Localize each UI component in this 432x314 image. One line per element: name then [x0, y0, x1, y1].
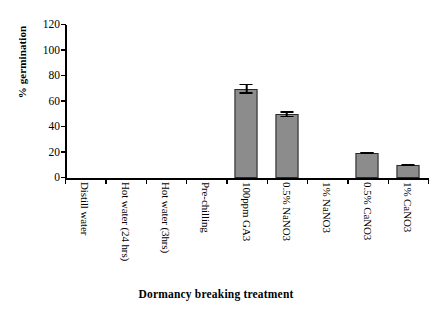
bar-slot: [65, 25, 105, 178]
plot-area: [65, 25, 428, 178]
x-tick-label: 100ppm GA3: [241, 182, 253, 241]
y-tick-label: 20: [30, 147, 60, 158]
error-bar-cap-top: [240, 84, 253, 86]
y-tick-label: 120: [30, 19, 60, 30]
x-tick-label-wrap: Hot water (24 hrs): [119, 178, 133, 288]
x-tick-label-wrap: Hot water (3hrs): [159, 178, 173, 288]
x-tick-label-wrap: Pre-chilling: [199, 178, 213, 288]
bar-slot: [146, 25, 186, 178]
x-tick-label: Hot water (24 hrs): [120, 182, 132, 261]
x-axis-tick-labels: Distill waterHot water (24 hrs)Hot water…: [65, 178, 428, 288]
x-tick-label: Pre-chilling: [200, 182, 212, 233]
x-tick-label: Hot water (3hrs): [160, 182, 172, 253]
error-bar: [361, 152, 374, 154]
y-axis-tick-labels: 020406080100120: [28, 0, 60, 314]
x-axis-title: Dormancy breaking treatment: [0, 288, 432, 300]
error-bar: [240, 84, 253, 94]
bar[interactable]: [275, 114, 298, 178]
error-bar-cap-bottom: [240, 92, 253, 94]
y-axis-title: % germination: [16, 7, 28, 117]
error-bar: [280, 111, 293, 117]
bar-slot: [347, 25, 387, 178]
y-tick-label: 0: [30, 172, 60, 183]
bar[interactable]: [235, 89, 258, 178]
bar-slot: [388, 25, 428, 178]
x-tick-mark: [428, 178, 429, 184]
y-tick-label: 80: [30, 70, 60, 81]
bar-chart: % germination 020406080100120 Distill wa…: [0, 0, 432, 314]
bar-slot: [186, 25, 226, 178]
x-tick-label: Distill water: [79, 182, 91, 235]
error-bar-cap-top: [280, 111, 293, 113]
x-tick-label-wrap: Distill water: [78, 178, 92, 288]
bar[interactable]: [396, 165, 419, 178]
x-tick-label-wrap: 1% NaNO3: [320, 178, 334, 288]
error-bar: [401, 165, 414, 166]
y-tick-label: 60: [30, 96, 60, 107]
bar-slot: [226, 25, 266, 178]
x-tick-label-wrap: 1% CaNO3: [401, 178, 415, 288]
x-tick-label-wrap: 0.5% CaNO3: [361, 178, 375, 288]
x-tick-label: 1% NaNO3: [321, 182, 333, 233]
bar-slot: [105, 25, 145, 178]
x-tick-label: 0.5% CaNO3: [362, 182, 374, 240]
bar[interactable]: [356, 153, 379, 179]
error-bar-cap-bottom: [361, 152, 374, 154]
x-tick-label: 0.5% NaNO3: [281, 182, 293, 241]
error-bar-cap-bottom: [280, 116, 293, 118]
x-tick-label-wrap: 0.5% NaNO3: [280, 178, 294, 288]
x-tick-label: 1% CaNO3: [402, 182, 414, 232]
y-tick-label: 100: [30, 45, 60, 56]
y-tick-label: 40: [30, 121, 60, 132]
error-bar-cap-bottom: [401, 164, 414, 166]
bar-slot: [267, 25, 307, 178]
x-tick-label-wrap: 100ppm GA3: [240, 178, 254, 288]
bar-slot: [307, 25, 347, 178]
